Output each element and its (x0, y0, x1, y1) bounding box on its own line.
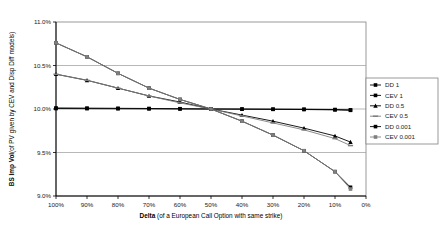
x-tick-label: 80% (112, 201, 125, 208)
legend-label-1: CEV 1 (385, 92, 403, 99)
series-marker-3 (332, 138, 337, 140)
x-tick-label: 10% (329, 201, 342, 208)
series-marker-5 (209, 107, 213, 111)
series-marker-5 (54, 41, 58, 45)
legend-marker-0 (374, 83, 378, 87)
line-chart: 11.0%10.5%10.0%9.5%9.0%100%90%80%70%60%5… (0, 0, 444, 235)
series-marker-1 (116, 107, 120, 111)
series-marker-1 (333, 108, 337, 112)
series-marker-3 (177, 102, 182, 104)
legend-label-3: CEV 0.5 (385, 112, 409, 119)
series-marker-5 (333, 170, 337, 174)
x-tick-label: 60% (174, 201, 187, 208)
legend-label-4: DD 0.001 (385, 123, 412, 130)
series-marker-1 (349, 109, 353, 113)
series-marker-3 (270, 122, 275, 124)
series-marker-1 (178, 107, 182, 111)
series-marker-3 (146, 95, 151, 97)
x-axis-title: Delta (of a European Call Option with sa… (140, 212, 283, 220)
series-marker-5 (302, 149, 306, 153)
series-marker-5 (85, 55, 89, 59)
y-tick-label: 11.0% (34, 18, 52, 25)
y-axis-title-rest: (of PV given by CEV and Disp Diff models… (8, 32, 16, 153)
y-tick-label: 9.5% (37, 149, 52, 156)
x-axis-title-bold: Delta (140, 212, 157, 219)
x-tick-label: 30% (267, 201, 280, 208)
y-tick-label: 9.0% (37, 192, 52, 199)
series-marker-1 (54, 106, 58, 110)
legend-marker-1 (374, 94, 378, 98)
series-marker-3 (301, 129, 306, 131)
series-marker-5 (271, 133, 275, 137)
series-marker-5 (349, 187, 353, 191)
x-tick-label: 100% (48, 201, 64, 208)
series-marker-5 (178, 98, 182, 102)
series-marker-3 (84, 80, 89, 82)
x-tick-label: 0% (362, 201, 371, 208)
y-tick-label: 10.0% (33, 105, 51, 112)
legend-label-0: DD 1 (385, 81, 400, 88)
legend-marker-3 (373, 116, 378, 118)
series-marker-3 (53, 74, 58, 76)
series-marker-1 (271, 108, 275, 112)
y-tick-label: 10.5% (33, 62, 51, 69)
series-marker-1 (85, 106, 89, 110)
series-marker-3 (239, 115, 244, 117)
series-marker-5 (116, 72, 120, 76)
series-marker-1 (240, 107, 244, 111)
y-axis-title-text: BS Imp Vol(of PV given by CEV and Disp D… (8, 32, 16, 186)
chart-container: 11.0%10.5%10.0%9.5%9.0%100%90%80%70%60%5… (0, 0, 444, 235)
series-marker-1 (302, 108, 306, 112)
series-marker-5 (240, 119, 244, 123)
series-marker-5 (147, 86, 151, 90)
y-axis-title-bold: BS Imp Vol (8, 153, 16, 186)
x-tick-label: 90% (81, 201, 94, 208)
series-marker-3 (115, 87, 120, 89)
x-tick-label: 70% (143, 201, 156, 208)
legend-label-2: DD 0.5 (385, 102, 405, 109)
legend-marker-5 (374, 135, 378, 139)
x-tick-label: 50% (205, 201, 218, 208)
legend-label-5: CEV 0.001 (385, 133, 415, 140)
series-marker-3 (348, 145, 353, 147)
x-tick-label: 20% (298, 201, 311, 208)
x-axis-title-rest: (of a European Call Option with same str… (157, 212, 282, 220)
x-tick-label: 40% (236, 201, 249, 208)
series-marker-1 (147, 107, 151, 111)
legend-marker-4 (374, 125, 378, 129)
y-axis-title: BS Imp Vol(of PV given by CEV and Disp D… (8, 32, 16, 186)
